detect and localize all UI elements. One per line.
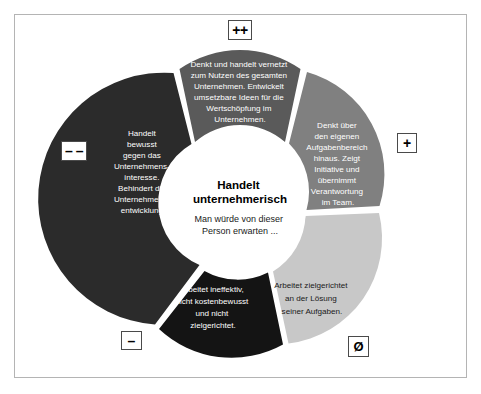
rating-badge-minus[interactable]: – — [121, 331, 142, 350]
segment-top[interactable]: Denkt und handelt vernetzt zum Nutzen de… — [180, 50, 301, 142]
center-hub: Handelt unternehmerisch Man würde von di… — [174, 142, 306, 274]
segment-right[interactable]: Denkt über den eigenen Aufgabenbereich h… — [289, 72, 384, 210]
rating-badge-neutral[interactable]: Ø — [348, 336, 369, 357]
center-circle — [174, 142, 306, 274]
segment-bottom-right-text: Arbeitet zielgerichtet an der Lösung sei… — [274, 281, 350, 316]
rating-badge-plus-plus[interactable]: ++ — [228, 20, 252, 40]
donut-wheel: Denkt und handelt vernetzt zum Nutzen de… — [0, 0, 481, 394]
rating-badge-minus-minus[interactable]: – – — [61, 141, 87, 161]
entrepreneurial-competency-wheel: Denkt und handelt vernetzt zum Nutzen de… — [0, 0, 481, 394]
rating-badge-plus[interactable]: + — [397, 133, 417, 153]
